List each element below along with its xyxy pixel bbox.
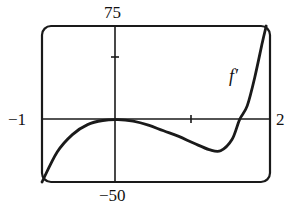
x-max-label: 2 [276, 111, 285, 128]
x-min-label: −1 [8, 111, 26, 128]
y-min-label: −50 [99, 187, 126, 204]
y-max-label: 75 [104, 4, 121, 21]
curve-label-f-prime: f′ [229, 67, 238, 85]
chart-canvas [0, 0, 292, 217]
plot-frame [42, 26, 270, 182]
f-prime-curve [42, 26, 266, 182]
